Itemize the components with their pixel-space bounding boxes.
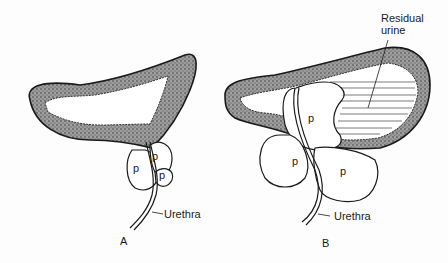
diagram-svg <box>0 0 448 263</box>
residual-label-line1: Residual <box>381 12 424 24</box>
panel-a-lobe-label-3: p <box>159 169 165 181</box>
bladder-prostate-diagram: p p p Urethra A Residual urine p p p Ure… <box>0 0 448 263</box>
panel-b-caption: B <box>322 237 329 249</box>
panel-a-lobe-label-1: p <box>133 162 139 174</box>
panel-a-bladder <box>29 54 196 148</box>
panel-a-caption: A <box>120 235 127 247</box>
panel-a-urethra-label: Urethra <box>164 208 201 220</box>
panel-b-lobe-label-1: p <box>308 112 314 124</box>
panel-b-lobe-label-2: p <box>292 155 298 167</box>
residual-label-line2: urine <box>381 24 405 36</box>
panel-b-lobe-label-3: p <box>340 165 346 177</box>
panel-a-lobe-label-2: p <box>152 150 158 162</box>
panel-b-urethra-label: Urethra <box>334 210 371 222</box>
